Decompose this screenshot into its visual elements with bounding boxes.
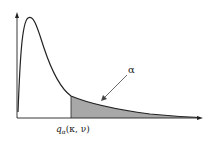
quantile-label-args: (κ, ν)	[66, 124, 90, 134]
quantile-label: qα(κ, ν)	[56, 124, 90, 135]
tail-area-label: α	[128, 64, 135, 75]
x-axis-arrow-icon	[197, 116, 203, 120]
density-diagram: α qα(κ, ν)	[0, 0, 209, 142]
alpha-pointer-line	[104, 75, 127, 98]
y-axis-arrow-icon	[15, 12, 19, 18]
shaded-tail-region	[71, 96, 200, 118]
density-curve	[18, 17, 200, 117]
